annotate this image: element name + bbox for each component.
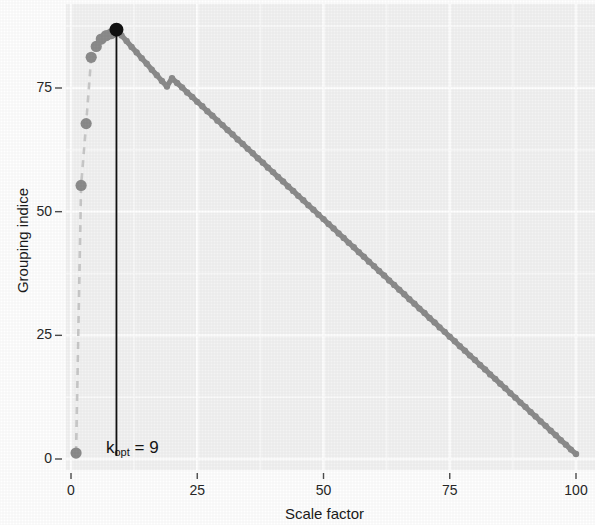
x-tick-label-0: 0 (41, 482, 101, 498)
x-tick-label-100: 100 (546, 482, 595, 498)
chart-plot-svg (0, 0, 595, 525)
k-opt-base: k (106, 438, 115, 457)
y-tick-label-75: 75 (6, 79, 52, 95)
y-axis-title: Grouping indice (14, 131, 31, 351)
x-axis-title: Scale factor (0, 505, 595, 522)
y-tick-label-50: 50 (6, 203, 52, 219)
x-tick-label-25: 25 (167, 482, 227, 498)
y-tick-label-0: 0 (6, 450, 52, 466)
k-opt-value: = 9 (130, 438, 159, 457)
highlight-point-marker (109, 23, 123, 37)
k-opt-annotation-label: kopt = 9 (106, 438, 159, 458)
k-opt-subscript: opt (115, 446, 130, 458)
chart-figure: Scale factor Grouping indice 0255075100 … (0, 0, 595, 525)
y-tick-label-25: 25 (6, 326, 52, 342)
x-tick-label-50: 50 (294, 482, 354, 498)
x-tick-label-75: 75 (420, 482, 480, 498)
